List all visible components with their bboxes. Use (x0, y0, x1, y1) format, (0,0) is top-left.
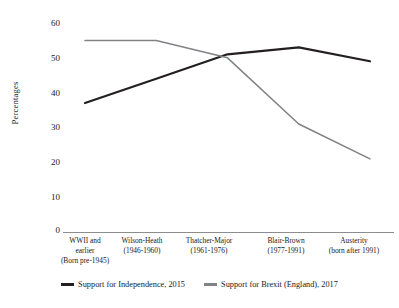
y-tick-label: 50 (38, 54, 60, 63)
legend-line-swatch-icon (61, 283, 74, 285)
x-tick-line: Thatcher-Major (169, 236, 249, 246)
legend-label: Support for Independence, 2015 (78, 280, 185, 289)
y-tick-label: 20 (38, 158, 60, 167)
x-tick-line: (1961-1976) (169, 246, 249, 256)
x-tick-label-austerity: Austerity (born after 1991) (313, 236, 395, 256)
line-chart-figure: Percentages 60 50 40 30 20 10 0 WWII and… (0, 0, 399, 308)
x-tick-label-thatcher-major: Thatcher-Major (1961-1976) (169, 236, 249, 256)
y-tick-label: 60 (38, 19, 60, 28)
legend-entry-independence: Support for Independence, 2015 (61, 280, 185, 289)
x-tick-line: (1977-1991) (249, 246, 323, 256)
y-axis-title: Percentages (10, 55, 20, 151)
legend-line-swatch-icon (204, 283, 217, 285)
chart-legend: Support for Independence, 2015 Support f… (0, 280, 399, 289)
y-tick-label: 40 (38, 89, 60, 98)
y-tick-label: 30 (38, 123, 60, 132)
x-tick-label-blair-brown: Blair-Brown (1977-1991) (249, 236, 323, 256)
series-lines (63, 23, 388, 232)
plot-area (63, 23, 388, 232)
y-tick-label: 0 (38, 226, 60, 235)
legend-entry-brexit: Support for Brexit (England), 2017 (204, 280, 338, 289)
x-tick-line: (Born pre-1945) (46, 256, 124, 266)
legend-label: Support for Brexit (England), 2017 (221, 280, 338, 289)
x-tick-line: Blair-Brown (249, 236, 323, 246)
x-tick-line: Austerity (313, 236, 395, 246)
series-line-support-for-independence (85, 47, 370, 103)
x-tick-line: (born after 1991) (313, 246, 395, 256)
series-line-support-for-brexit (85, 40, 370, 158)
x-axis-line (63, 232, 394, 233)
y-tick-label: 10 (38, 193, 60, 202)
